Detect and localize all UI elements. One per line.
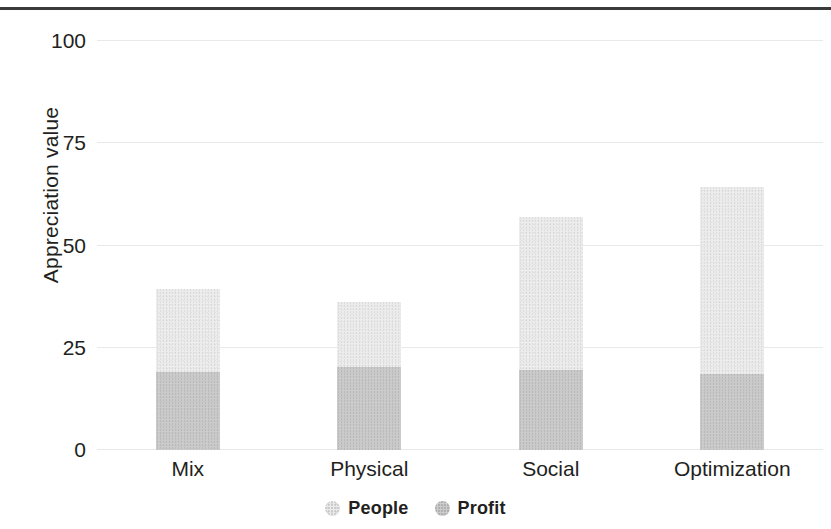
bar-segment-mix-profit[interactable] (156, 372, 220, 450)
y-tick-label-100: 100 (16, 30, 86, 51)
bar-group-social[interactable] (519, 41, 583, 450)
plot-area (97, 40, 823, 450)
profit-swatch-icon (435, 501, 450, 516)
bar-segment-social-people[interactable] (519, 217, 583, 370)
bar-group-optimization[interactable] (700, 41, 764, 450)
y-axis-tick-labels: 0255075100 (12, 40, 86, 450)
bar-segment-optimization-profit[interactable] (700, 374, 764, 450)
y-tick-label-0: 0 (16, 439, 86, 460)
bar-segment-physical-profit[interactable] (337, 367, 401, 450)
people-swatch-icon (325, 501, 340, 516)
y-tick-label-25: 25 (16, 337, 86, 358)
bar-group-mix[interactable] (156, 41, 220, 450)
bar-segment-optimization-people[interactable] (700, 187, 764, 374)
legend-label-profit: Profit (458, 498, 506, 519)
bar-group-physical[interactable] (337, 41, 401, 450)
y-tick-label-50: 50 (16, 235, 86, 256)
legend-item-profit[interactable]: Profit (435, 498, 506, 519)
legend-item-people[interactable]: People (325, 498, 408, 519)
stacked-bar-chart: Appreciation value 0255075100 MixPhysica… (0, 0, 831, 529)
bar-segment-physical-people[interactable] (337, 302, 401, 367)
bar-segment-mix-people[interactable] (156, 289, 220, 372)
x-tick-label-optimization: Optimization (622, 458, 831, 479)
bar-segment-social-profit[interactable] (519, 370, 583, 450)
y-tick-label-75: 75 (16, 132, 86, 153)
legend-label-people: People (348, 498, 408, 519)
chart-legend: PeopleProfit (0, 498, 831, 519)
